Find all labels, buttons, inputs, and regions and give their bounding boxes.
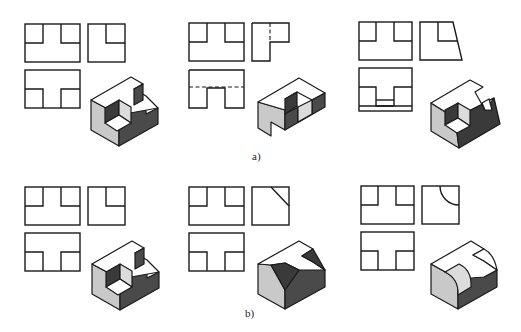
top-view [189, 70, 244, 108]
isometric-view [91, 77, 158, 146]
row-label-b: b) [245, 307, 254, 319]
panel-a1 [25, 24, 158, 146]
isometric-view [431, 80, 500, 148]
isometric-view [92, 241, 159, 310]
front-view [359, 22, 412, 60]
row-label-a: a) [252, 150, 261, 162]
front-view [189, 187, 244, 225]
front-view [25, 187, 80, 225]
top-view [189, 233, 244, 271]
front-view [361, 186, 414, 224]
side-view [252, 23, 289, 61]
side-view [88, 187, 125, 225]
top-view [359, 68, 412, 111]
isometric-view [258, 78, 325, 136]
side-view [420, 22, 462, 60]
panel-b3 [361, 186, 497, 309]
isometric-view [431, 241, 497, 309]
front-view [189, 23, 244, 61]
side-view [252, 187, 289, 225]
top-view [361, 232, 414, 270]
orthographic-projection-figure [0, 0, 521, 332]
panel-a3 [359, 22, 500, 148]
top-view [25, 70, 80, 108]
side-view [422, 186, 459, 224]
isometric-view [258, 241, 325, 309]
top-view [25, 233, 80, 271]
side-view [88, 24, 125, 62]
panel-b2 [189, 187, 325, 309]
panel-a2 [189, 23, 325, 136]
panel-b1 [25, 187, 159, 310]
front-view [25, 24, 80, 62]
